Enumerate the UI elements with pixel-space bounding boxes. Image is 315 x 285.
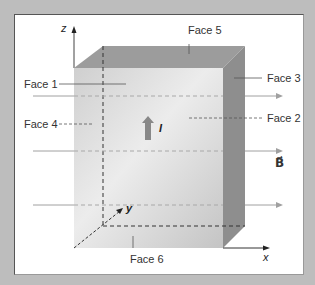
z-axis-label: z	[61, 22, 67, 34]
face-5-label: Face 5	[188, 24, 222, 36]
face-4-label: Face 4	[24, 118, 58, 130]
face-3-label: Face 3	[267, 72, 301, 84]
x-axis-label: x	[263, 251, 269, 263]
face-6-label: Face 6	[130, 253, 164, 265]
face-2-label: Face 2	[267, 112, 301, 124]
face-5-top	[74, 46, 245, 68]
box-diagram	[0, 0, 315, 285]
x-axis-arrowhead-icon	[263, 246, 270, 251]
face-1-label: Face 1	[24, 78, 58, 90]
z-axis-arrowhead-icon	[72, 26, 77, 33]
current-label: I	[159, 122, 162, 134]
magnetic-field-label: B⃗	[275, 156, 284, 170]
y-axis-label: y	[126, 202, 132, 214]
face-3-side	[223, 46, 245, 248]
face-1-front	[74, 68, 223, 248]
field-arrowheads-icon	[276, 93, 283, 208]
